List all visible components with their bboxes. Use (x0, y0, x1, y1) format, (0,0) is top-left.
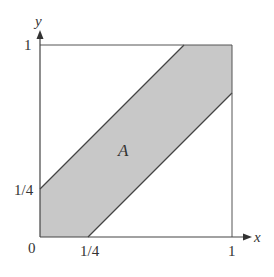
y-tick-1: 1 (24, 37, 32, 53)
y-axis-label: y (33, 13, 42, 29)
x-tick-quarter: 1/4 (80, 243, 100, 259)
x-axis-label: x (253, 229, 261, 245)
diagram-canvas: y x 1 1/4 0 1/4 1 A (0, 0, 274, 277)
region-a-label: A (117, 141, 129, 160)
origin-label: 0 (28, 240, 36, 256)
y-axis-arrow-icon (37, 30, 44, 39)
x-tick-1: 1 (228, 243, 236, 259)
x-axis-arrow-icon (243, 234, 252, 241)
region-a (40, 45, 232, 237)
y-tick-quarter: 1/4 (14, 182, 34, 198)
